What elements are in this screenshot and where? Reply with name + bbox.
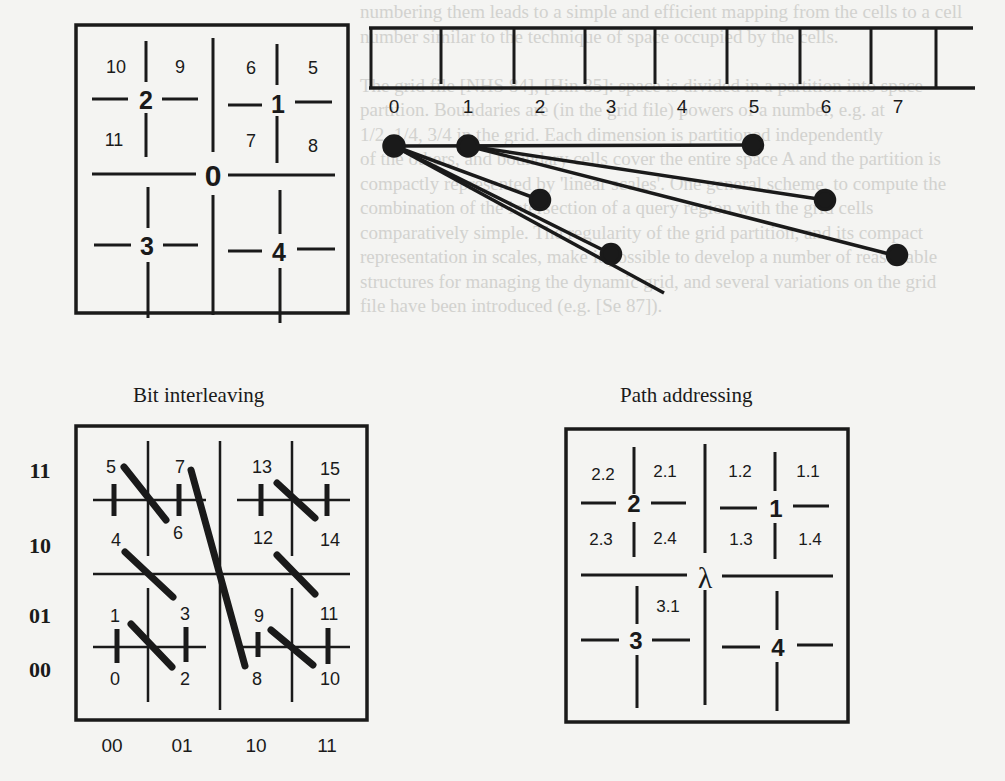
path-quadrant-4: 4: [771, 634, 785, 661]
cell-15: 15: [320, 459, 340, 479]
quadtree-cell-5: 5: [308, 58, 318, 78]
array-index-0: 0: [389, 96, 400, 117]
linear-array-indices: 0 1 2 3 4 5 6 7: [389, 96, 904, 117]
quadtree-labels: 0 1 2 3 4 5 6 7 8 9 10 11: [105, 57, 318, 266]
col-label-10: 10: [245, 735, 266, 756]
cell-13: 13: [252, 457, 272, 477]
quadtree-quadrant-1: 1: [271, 90, 285, 118]
col-label-01: 01: [171, 735, 192, 756]
pointer-node-1: [458, 136, 478, 156]
path-root-lambda: λ: [698, 561, 713, 594]
path-quadrant-1: 1: [769, 495, 782, 522]
cell-2: 2: [180, 669, 190, 689]
array-index-1: 1: [463, 96, 474, 117]
path-cell-2-4: 2.4: [653, 529, 677, 548]
quadtree-quadrant-3: 3: [140, 232, 154, 260]
quadtree-quadrant-4: 4: [272, 238, 286, 266]
path-addressing-caption: Path addressing: [620, 383, 752, 408]
pointer-target-node: [531, 191, 550, 210]
path-quadrant-2: 2: [627, 490, 640, 517]
linear-array: [369, 28, 975, 88]
path-cell-1-3: 1.3: [729, 530, 753, 549]
cell-6: 6: [173, 523, 183, 543]
quadtree-cell-11: 11: [105, 130, 124, 150]
cell-1: 1: [110, 606, 120, 626]
row-label-11: 11: [30, 458, 51, 483]
pointer-target-node: [744, 136, 763, 155]
cell-0: 0: [110, 669, 120, 689]
cell-5: 5: [106, 457, 116, 477]
cell-14: 14: [320, 530, 340, 550]
path-cell-3-1: 3.1: [656, 597, 680, 616]
col-label-11: 11: [317, 735, 337, 756]
col-label-00: 00: [101, 735, 122, 756]
quadtree-cell-9: 9: [175, 57, 185, 77]
pointer-target-node: [888, 246, 907, 265]
cell-12: 12: [253, 528, 273, 548]
array-index-7: 7: [893, 96, 904, 117]
pointer-target-node: [816, 191, 835, 210]
path-quadrant-3: 3: [629, 627, 642, 654]
cell-9: 9: [254, 606, 264, 626]
quadtree-quadrant-2: 2: [139, 86, 153, 114]
quadtree-cell-6: 6: [246, 58, 256, 78]
path-cell-2-3: 2.3: [589, 530, 613, 549]
quadtree-cell-7: 7: [246, 131, 256, 151]
cell-7: 7: [175, 457, 185, 477]
array-index-5: 5: [749, 96, 760, 117]
cell-10: 10: [320, 669, 340, 689]
array-index-4: 4: [677, 96, 688, 117]
array-index-2: 2: [535, 96, 546, 117]
path-cell-2-1: 2.1: [653, 462, 677, 481]
pointer-graph: [384, 136, 907, 294]
path-cell-1-1: 1.1: [796, 462, 820, 481]
cell-3: 3: [180, 604, 190, 624]
path-cell-1-2: 1.2: [728, 462, 752, 481]
cell-8: 8: [252, 669, 262, 689]
bit-interleaving-caption: Bit interleaving: [133, 383, 264, 408]
pointer-node-0: [384, 136, 404, 156]
cell-11: 11: [320, 604, 339, 624]
cell-4: 4: [111, 530, 121, 550]
path-cell-1-4: 1.4: [798, 530, 822, 549]
path-cell-2-2: 2.2: [591, 465, 615, 484]
array-index-6: 6: [821, 96, 832, 117]
array-index-3: 3: [606, 96, 617, 117]
quadtree-cell-10: 10: [106, 57, 126, 77]
row-label-00: 00: [29, 657, 51, 682]
quadtree-cell-8: 8: [308, 136, 318, 156]
row-label-01: 01: [29, 603, 51, 628]
row-label-10: 10: [29, 533, 51, 558]
quadtree-root-label: 0: [205, 159, 222, 192]
pointer-target-node: [602, 245, 621, 264]
